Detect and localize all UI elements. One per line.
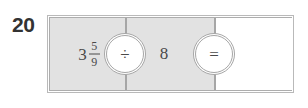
fraction-denominator: 9 [90,55,98,68]
equation-frame: 3 5 9 8 ÷ = [47,15,294,93]
division-operator-symbol: ÷ [106,35,144,73]
fraction: 5 9 [89,39,100,67]
equals-operator-symbol: = [195,35,233,73]
equation-inner: 3 5 9 8 ÷ = [49,17,292,91]
division-operator-icon: ÷ [104,33,146,75]
problem-number: 20 [12,12,44,38]
mixed-number-whole: 3 [78,46,87,63]
worksheet-problem: 20 3 5 9 [0,0,308,108]
equals-operator-icon: = [193,33,235,75]
mixed-number: 3 5 9 [78,40,100,68]
operand-whole-number: 8 [146,18,182,90]
fraction-numerator: 5 [90,39,98,52]
